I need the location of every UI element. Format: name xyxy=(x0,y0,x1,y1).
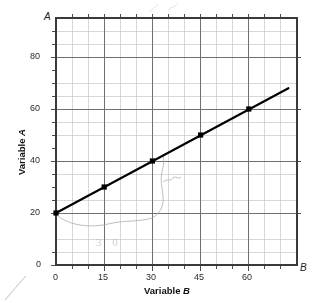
ytick-label-40: 40 xyxy=(30,155,40,165)
x-axis-title-letter: B xyxy=(183,285,190,296)
xtick-label-0: 0 xyxy=(53,272,58,282)
pencil-note-text: 3 0 xyxy=(96,236,122,248)
xtick-label-60: 60 xyxy=(242,272,252,282)
plot-background xyxy=(56,18,297,265)
data-point-60-60 xyxy=(246,106,251,111)
data-point-15-30 xyxy=(102,184,107,189)
ytick-label-80: 80 xyxy=(30,51,40,61)
x-axis-letter: B xyxy=(300,262,307,273)
y-axis-title: Variable A xyxy=(16,129,27,175)
ytick-label-20: 20 xyxy=(30,207,40,217)
ytick-label-60: 60 xyxy=(30,103,40,113)
xtick-label-15: 15 xyxy=(98,272,108,282)
y-axis-title-word: Variable xyxy=(16,139,27,175)
ytick-label-0: 0 xyxy=(36,259,41,269)
chart-figure: A B 0 20 40 60 80 0 15 30 45 60 Variable… xyxy=(0,0,313,303)
data-point-30-40 xyxy=(150,158,155,163)
y-axis-title-letter: A xyxy=(16,129,27,136)
data-point-45-50 xyxy=(198,132,203,137)
x-axis-title-word: Variable xyxy=(144,285,180,296)
data-point-0-20 xyxy=(53,210,58,215)
chart-canvas xyxy=(0,0,313,303)
xtick-label-45: 45 xyxy=(194,272,204,282)
x-axis-title: Variable B xyxy=(144,285,190,296)
xtick-label-30: 30 xyxy=(146,272,156,282)
y-axis-letter: A xyxy=(44,11,51,22)
